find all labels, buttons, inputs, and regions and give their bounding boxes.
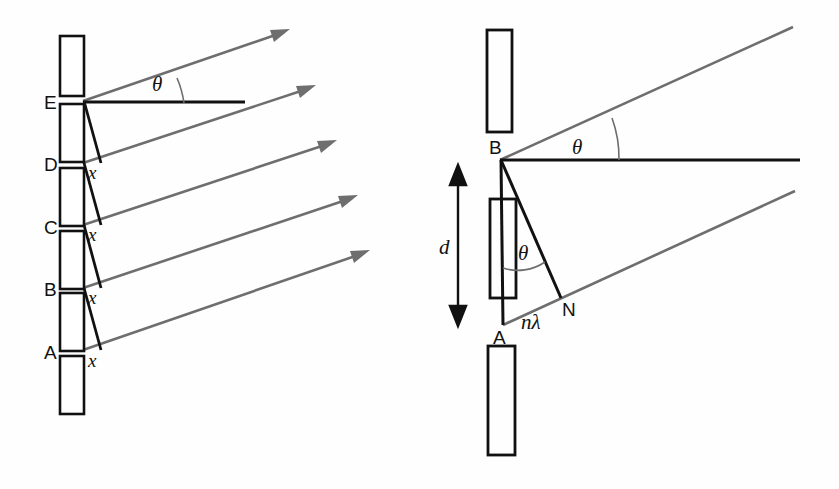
path-difference-label-nlambda: nλ — [521, 310, 541, 335]
spacing-dimension-arrow — [450, 165, 466, 326]
right-panel-graphics — [0, 0, 839, 489]
right-theta-label-inner: θ — [518, 241, 528, 266]
ray-from-B — [500, 27, 793, 160]
right-slit-label-B: B — [489, 137, 502, 159]
right-theta-label-top: θ — [572, 135, 582, 160]
figure-canvas: E D C B A x x x x θ B — [0, 0, 839, 489]
right-slit-label-A: A — [493, 327, 506, 349]
spacing-label-d: d — [439, 235, 450, 260]
right-foot-label-N: N — [562, 299, 576, 321]
right-slit-bar-bottom — [488, 346, 515, 455]
right-gray-rays — [500, 27, 795, 325]
d-arrowhead-down — [450, 306, 466, 326]
right-angle-arc-top — [612, 118, 619, 160]
d-arrowhead-up — [450, 165, 466, 185]
segment-BA — [501, 160, 503, 325]
ray-from-A — [503, 191, 795, 325]
right-slit-bar-top — [487, 30, 512, 132]
